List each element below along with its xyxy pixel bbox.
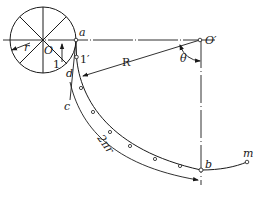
point-a (74, 38, 78, 42)
label-2-pi-r: 2πr (94, 131, 117, 156)
point-b (199, 168, 203, 172)
label-a: a (79, 26, 86, 39)
geometry-diagram: r O a 1 1′ d c R O′ θ 2πr b m (0, 0, 258, 198)
label-theta: θ (180, 52, 187, 65)
label-m: m (243, 147, 253, 160)
label-1-prime: 1′ (80, 53, 90, 66)
label-O: O (44, 44, 53, 57)
point-1-prime (75, 55, 79, 59)
label-O-prime: O′ (205, 34, 217, 47)
label-R: R (122, 56, 131, 69)
point-O-prime (198, 38, 202, 42)
label-b: b (205, 158, 212, 171)
label-1: 1 (53, 58, 60, 71)
curve-points (74, 38, 249, 172)
point-m (245, 160, 249, 164)
label-d: d (66, 67, 73, 80)
main-curve (76, 40, 247, 170)
label-r: r (24, 41, 30, 54)
label-c: c (64, 100, 70, 113)
